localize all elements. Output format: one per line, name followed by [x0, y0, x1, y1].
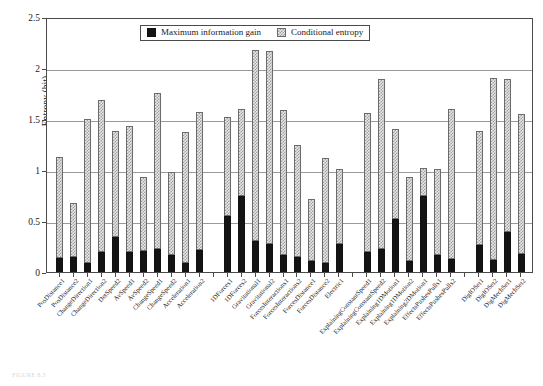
figure-caption: FIGURE 8.3 [12, 372, 46, 378]
x-axis-tick-labels: PosDistance1PosDistance2ChangeDirection1… [0, 0, 543, 386]
legend-entry-conditional: Conditional entropy [277, 28, 363, 37]
solid-black-square-icon [147, 28, 156, 37]
legend-entry-gain: Maximum information gain [147, 28, 261, 37]
chart-legend: Maximum information gain Conditional ent… [140, 25, 370, 41]
legend-label-conditional: Conditional entropy [291, 28, 363, 37]
legend-label-gain: Maximum information gain [161, 28, 261, 37]
dotted-grey-square-icon [277, 28, 286, 37]
figure-root: Entropy (bit) 00.511.522.5 PosDistance1P… [0, 0, 543, 386]
